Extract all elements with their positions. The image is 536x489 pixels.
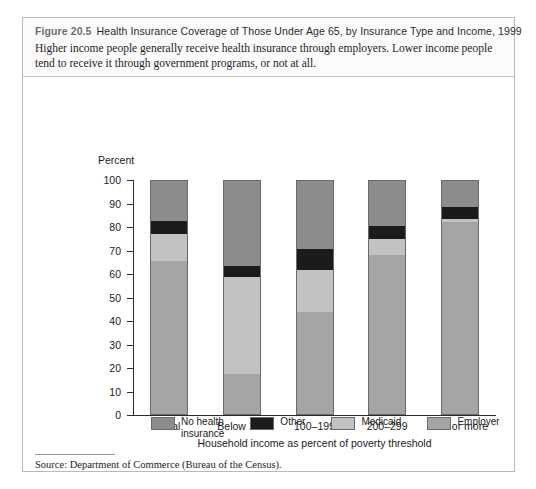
legend-item[interactable]: No health insurance bbox=[151, 416, 224, 439]
bar-segment-no-health-insurance bbox=[369, 181, 405, 225]
legend-swatch bbox=[427, 417, 451, 430]
legend-swatch bbox=[331, 417, 355, 430]
bar-segment-employer bbox=[369, 255, 405, 415]
bar-100-199[interactable] bbox=[296, 180, 334, 415]
bar-segment-medicaid bbox=[369, 239, 405, 255]
legend-swatch bbox=[151, 417, 175, 430]
figure-header: Figure 20.5Health Insurance Coverage of … bbox=[23, 18, 514, 77]
figure-caption: Higher income people generally receive h… bbox=[35, 41, 502, 74]
bar-total[interactable] bbox=[150, 180, 188, 415]
bar-segment-other bbox=[369, 226, 405, 239]
figure-card: Figure 20.5Health Insurance Coverage of … bbox=[22, 17, 515, 472]
bar-segment-no-health-insurance bbox=[151, 181, 187, 221]
legend-label: Other bbox=[280, 416, 305, 428]
source-divider bbox=[35, 454, 115, 455]
bar-200-299[interactable] bbox=[368, 180, 406, 415]
bars-layer bbox=[133, 180, 496, 415]
bar-segment-employer bbox=[151, 261, 187, 415]
bar-segment-employer bbox=[224, 374, 260, 415]
y-tick-label: 70 bbox=[91, 246, 121, 257]
figure-title-text: Health Insurance Coverage of Those Under… bbox=[97, 25, 522, 37]
y-tick-label: 90 bbox=[91, 199, 121, 210]
source-note: Source: Department of Commerce (Bureau o… bbox=[35, 459, 282, 470]
legend-item[interactable]: Other bbox=[250, 416, 305, 430]
legend-swatch bbox=[250, 417, 274, 430]
bar-segment-no-health-insurance bbox=[224, 181, 260, 266]
bar-300-or-more[interactable] bbox=[441, 180, 479, 415]
bar-segment-other bbox=[442, 207, 478, 219]
figure-number: Figure 20.5 bbox=[35, 25, 92, 37]
y-tick-label: 50 bbox=[91, 293, 121, 304]
chart-plot-area: Percent 0102030405060708090100 TotalBelo… bbox=[23, 77, 514, 445]
y-tick-label: 30 bbox=[91, 340, 121, 351]
y-tick-label: 40 bbox=[91, 316, 121, 327]
legend-label: Medicaid bbox=[361, 416, 401, 428]
bar-segment-medicaid bbox=[297, 270, 333, 312]
y-tick-mark bbox=[127, 415, 134, 416]
bar-segment-employer bbox=[442, 222, 478, 414]
legend-label: No health insurance bbox=[181, 416, 224, 439]
bar-below-100[interactable] bbox=[223, 180, 261, 415]
bar-segment-no-health-insurance bbox=[442, 181, 478, 207]
legend-item[interactable]: Employer bbox=[427, 416, 499, 430]
bar-segment-employer bbox=[297, 312, 333, 415]
bar-segment-medicaid bbox=[151, 234, 187, 261]
chart-legend: No health insuranceOtherMedicaidEmployer bbox=[151, 416, 526, 439]
y-tick-label: 0 bbox=[91, 410, 121, 421]
figure-title: Figure 20.5Health Insurance Coverage of … bbox=[35, 25, 502, 37]
bar-segment-medicaid bbox=[442, 219, 478, 222]
y-tick-label: 100 bbox=[91, 175, 121, 186]
legend-item[interactable]: Medicaid bbox=[331, 416, 401, 430]
x-axis-title: Household income as percent of poverty t… bbox=[133, 437, 496, 449]
bar-segment-other bbox=[297, 249, 333, 270]
y-tick-label: 20 bbox=[91, 363, 121, 374]
bar-segment-other bbox=[224, 266, 260, 276]
y-tick-label: 10 bbox=[91, 387, 121, 398]
bar-segment-no-health-insurance bbox=[297, 181, 333, 249]
y-tick-label: 80 bbox=[91, 222, 121, 233]
legend-label: Employer bbox=[457, 416, 499, 428]
bar-segment-other bbox=[151, 221, 187, 234]
y-tick-label: 60 bbox=[91, 269, 121, 280]
y-axis-title: Percent bbox=[98, 154, 134, 166]
bar-segment-medicaid bbox=[224, 277, 260, 374]
